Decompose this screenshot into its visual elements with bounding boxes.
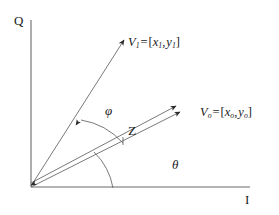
vo-bracket-close: ] [248,105,252,119]
iq-vector-diagram: Q I V1=[x1, y1] Vo=[xo, yo] φ Z θ [0,0,279,215]
phi-angle-label: φ [105,104,112,117]
i-axis-label: I [245,193,249,206]
vo-comma: , [234,105,237,119]
z-vector-line-lower [31,112,180,187]
vo-equals: = [212,105,221,119]
vo-subscript: o [208,111,212,120]
v1-vector-label: V1=[x1, y1] [128,36,180,49]
z-vector-line-upper [31,106,176,183]
vo-symbol: V [200,105,208,119]
vo-vector-label: Vo=[xo, yo] [200,106,252,119]
theta-arc [94,152,113,188]
z-magnitude-label: Z [128,124,136,138]
v1-symbol: V [128,35,136,49]
v1-bracket-close: ] [176,35,180,49]
v1-comma: , [162,35,165,49]
v1-equals: = [140,35,149,49]
theta-angle-label: θ [172,158,178,171]
q-axis-label: Q [14,14,23,27]
phi-arc [81,120,123,143]
v1-subscript: 1 [136,41,140,50]
